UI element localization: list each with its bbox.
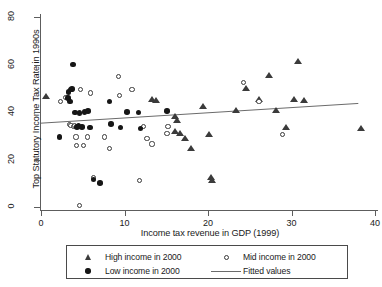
data-point-mid-income <box>67 122 72 127</box>
y-tick-label: 80 <box>6 0 16 36</box>
x-tick <box>292 210 293 216</box>
plot-area <box>0 0 382 287</box>
data-point-mid-income <box>73 134 78 139</box>
data-point-high-income <box>294 58 302 64</box>
legend-label: Mid income in 2000 <box>243 252 316 262</box>
data-point-high-income <box>187 145 195 151</box>
data-point-low-income <box>82 109 88 115</box>
y-tick <box>34 160 40 161</box>
data-point-high-income <box>42 93 50 99</box>
y-tick-label: 20 <box>6 139 16 179</box>
x-tick-label: 10 <box>110 218 140 228</box>
data-point-high-income <box>171 128 179 134</box>
data-point-mid-income <box>63 95 68 100</box>
y-tick <box>34 207 40 208</box>
data-point-mid-income <box>91 175 96 180</box>
x-axis-line <box>40 210 378 211</box>
data-point-mid-income <box>144 136 149 141</box>
data-point-mid-income <box>72 123 77 128</box>
data-point-high-income <box>181 135 189 141</box>
data-point-low-income <box>85 108 91 114</box>
data-point-low-income <box>70 62 76 68</box>
data-point-mid-income <box>78 87 83 92</box>
data-point-low-income <box>107 99 113 105</box>
x-axis-label: Income tax revenue in GDP (1999) <box>45 228 375 238</box>
data-point-low-income <box>91 177 97 183</box>
data-point-high-income <box>282 124 290 130</box>
x-tick-label: 30 <box>277 218 307 228</box>
y-tick-label: 0 <box>6 186 16 226</box>
data-point-high-income <box>272 107 280 113</box>
open-circle-icon <box>209 255 243 260</box>
data-point-low-income <box>97 180 103 186</box>
data-point-low-income <box>72 110 78 116</box>
data-point-low-income <box>118 125 124 131</box>
data-point-high-income <box>176 130 184 136</box>
data-point-low-income <box>69 86 75 92</box>
data-point-low-income <box>65 95 71 101</box>
x-tick-label: 20 <box>193 218 223 228</box>
data-point-mid-income <box>117 93 122 98</box>
data-point-low-income <box>124 109 130 115</box>
legend: High income in 2000 Mid income in 2000 L… <box>66 245 348 279</box>
data-point-high-income <box>255 96 263 102</box>
legend-item-low-income: Low income in 2000 <box>71 264 180 278</box>
y-axis-label: Top Statutory Income Tax Rate in 1990s <box>31 9 41 209</box>
data-point-high-income <box>357 125 365 131</box>
data-point-mid-income <box>81 143 86 148</box>
data-point-mid-income <box>256 99 261 104</box>
data-point-low-income <box>57 134 63 140</box>
data-point-low-income <box>79 124 85 130</box>
data-point-low-income <box>68 87 74 93</box>
data-point-high-income <box>300 97 308 103</box>
data-point-high-income <box>173 117 181 123</box>
fitted-line <box>0 0 382 287</box>
x-tick <box>41 210 42 216</box>
y-tick <box>34 65 40 66</box>
filled-circle-icon <box>71 268 105 273</box>
legend-label: High income in 2000 <box>105 252 181 262</box>
data-point-mid-income <box>164 131 169 136</box>
line-swatch-icon <box>209 271 243 272</box>
legend-label: Low income in 2000 <box>105 266 180 276</box>
y-tick <box>34 17 40 18</box>
data-point-high-income <box>148 96 156 102</box>
data-point-mid-income <box>85 134 90 139</box>
data-point-mid-income <box>137 178 142 183</box>
data-point-low-income <box>136 110 142 116</box>
data-point-low-income <box>74 124 80 130</box>
scatter-plot-figure: Top Statutory Income Tax Rate in 1990s I… <box>0 0 382 287</box>
data-point-low-income <box>67 99 73 105</box>
data-point-low-income <box>138 126 144 132</box>
data-point-mid-income <box>165 124 170 129</box>
data-point-mid-income <box>280 132 285 137</box>
data-point-mid-income <box>58 99 63 104</box>
data-point-mid-income <box>77 203 82 208</box>
legend-label: Fitted values <box>243 266 290 276</box>
y-tick <box>34 112 40 113</box>
y-tick-label: 40 <box>6 91 16 131</box>
data-point-mid-income <box>129 87 134 92</box>
data-point-high-income <box>290 96 298 102</box>
data-point-low-income <box>164 108 170 114</box>
data-point-high-income <box>208 177 216 183</box>
data-point-mid-income <box>149 141 154 146</box>
legend-item-high-income: High income in 2000 <box>71 250 181 264</box>
data-point-mid-income <box>241 80 246 85</box>
data-point-mid-income <box>68 123 73 128</box>
x-tick <box>125 210 126 216</box>
legend-item-fitted-values: Fitted values <box>209 264 290 278</box>
data-point-low-income <box>76 123 82 129</box>
x-tick-label: 0 <box>26 218 56 228</box>
filled-triangle-icon <box>71 254 105 260</box>
data-point-high-income <box>205 131 213 137</box>
data-point-high-income <box>242 85 250 91</box>
data-point-mid-income <box>116 74 121 79</box>
data-point-mid-income <box>71 124 76 129</box>
data-point-high-income <box>207 174 215 180</box>
data-point-low-income <box>77 110 83 116</box>
data-point-low-income <box>87 125 93 131</box>
data-point-high-income <box>265 72 273 78</box>
data-point-mid-income <box>102 134 107 139</box>
x-tick-label: 40 <box>360 218 382 228</box>
